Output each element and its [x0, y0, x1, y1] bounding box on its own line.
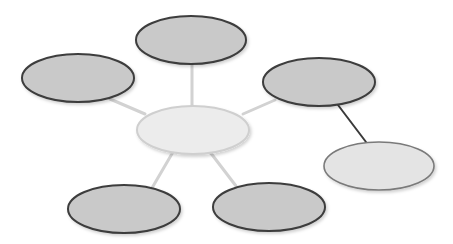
- diagram-canvas: [0, 0, 453, 244]
- connector-center-to-left: [110, 99, 145, 114]
- node-right-upper[interactable]: [263, 58, 375, 106]
- connector-center-to-right-upper: [243, 100, 275, 114]
- connector-center-to-bottom-left: [152, 152, 173, 188]
- node-layer: [22, 16, 434, 233]
- spider-diagram: [0, 0, 453, 244]
- node-top[interactable]: [136, 16, 246, 64]
- node-left[interactable]: [22, 54, 134, 102]
- connector-right-upper-to-right-lower: [338, 105, 366, 142]
- node-right-lower[interactable]: [324, 142, 434, 190]
- node-bottom-left[interactable]: [68, 185, 180, 233]
- node-center[interactable]: [137, 106, 249, 154]
- node-bottom-right[interactable]: [213, 183, 325, 231]
- connector-center-to-bottom-right: [210, 152, 236, 186]
